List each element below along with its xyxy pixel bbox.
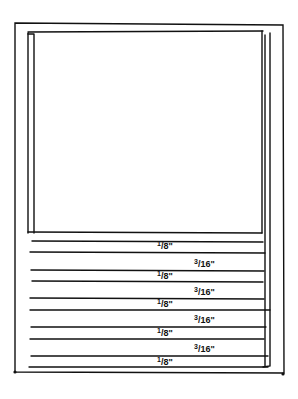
dimension-label: 3/16"	[194, 258, 215, 269]
slat-line	[31, 270, 264, 271]
dimension-label: 3/16"	[194, 314, 215, 325]
dimension-label: 1/8"	[157, 327, 173, 338]
dimension-label: 1/8"	[157, 270, 173, 281]
slat-line	[32, 281, 263, 282]
outer-frame	[15, 23, 284, 373]
slat-line	[30, 298, 264, 299]
dimension-label: 3/16"	[194, 286, 215, 297]
dimension-label: 1/8"	[157, 298, 173, 309]
right-rail-outer	[263, 33, 270, 367]
dimension-label: 1/8"	[157, 240, 173, 251]
inner-panel-left-edge	[28, 34, 34, 233]
slat-line	[32, 241, 263, 242]
slat-line	[30, 252, 265, 253]
slat-line	[28, 232, 262, 233]
dimension-label: 3/16"	[194, 343, 215, 354]
diagram-canvas	[0, 0, 298, 399]
inner-panel	[28, 31, 263, 233]
dimension-label: 1/8"	[157, 356, 173, 367]
